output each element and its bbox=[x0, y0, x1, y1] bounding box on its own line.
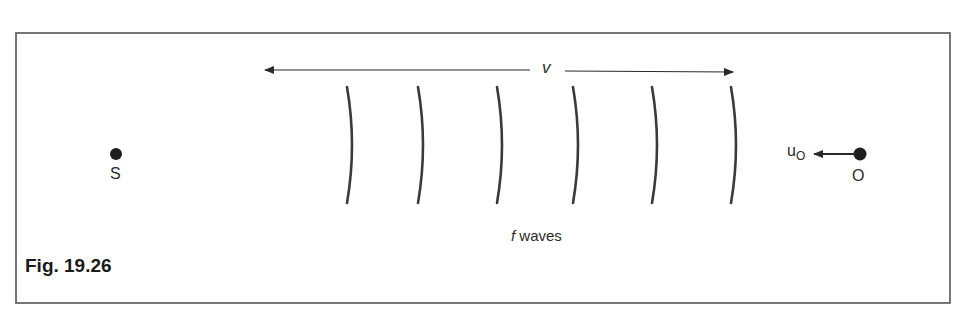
figure-frame bbox=[16, 33, 950, 303]
wavefront-5 bbox=[652, 87, 657, 203]
figure-caption: Fig. 19.26 bbox=[25, 255, 112, 277]
source-dot bbox=[110, 148, 122, 160]
observer-velocity-label: uO bbox=[787, 142, 805, 163]
wavefronts bbox=[347, 87, 736, 203]
observer-label: O bbox=[852, 167, 864, 185]
observer-velocity-symbol: u bbox=[787, 142, 796, 159]
wave-speed-arrow bbox=[265, 70, 733, 72]
wavefront-1 bbox=[347, 87, 352, 203]
wave-count-label: f waves bbox=[511, 227, 562, 244]
source-label: S bbox=[110, 165, 121, 183]
doppler-diagram bbox=[0, 0, 975, 325]
wavefront-4 bbox=[573, 87, 578, 203]
wavefront-2 bbox=[418, 87, 423, 203]
wavefront-6 bbox=[731, 87, 736, 203]
wave-speed-label: v bbox=[542, 58, 551, 78]
observer-velocity-subscript: O bbox=[796, 149, 805, 163]
wave-count-rest: waves bbox=[515, 227, 562, 244]
wavefront-3 bbox=[497, 87, 502, 203]
